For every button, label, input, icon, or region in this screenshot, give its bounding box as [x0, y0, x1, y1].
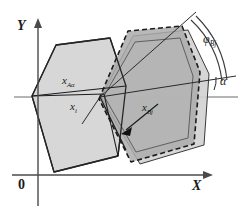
y-axis-arrowhead	[34, 18, 42, 28]
alpha-label: α	[220, 74, 226, 89]
x-axis-label: X	[192, 178, 201, 194]
x-Bj-label: xBj	[142, 101, 153, 115]
x-axis-arrowhead	[203, 171, 213, 179]
origin-label: 0	[18, 177, 25, 193]
phi-Bj-label: φBj	[203, 32, 216, 48]
figure-canvas: Y X 0 xAα xi xBj φBj α	[0, 0, 250, 216]
y-axis-label: Y	[17, 18, 26, 34]
x-A-alpha-label: xAα	[62, 74, 75, 88]
x-i-label: xi	[70, 100, 77, 114]
